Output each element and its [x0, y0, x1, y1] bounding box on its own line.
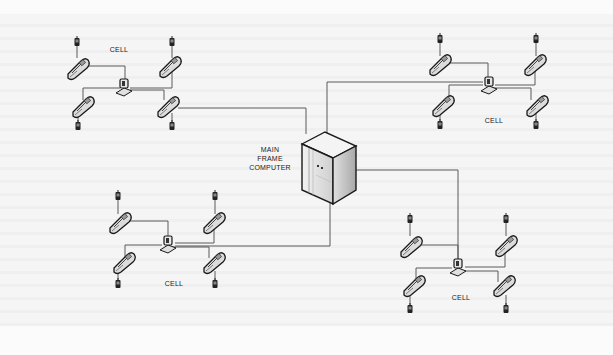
- mobile-phone-icon: [204, 253, 225, 274]
- handset-icon: [408, 303, 413, 313]
- mobile-phone-icon: [433, 96, 454, 117]
- mobile-phone-icon: [404, 276, 425, 297]
- handset-icon: [75, 36, 80, 46]
- cell-label-bottom-right: CELL: [446, 293, 476, 302]
- handset-icon: [438, 119, 443, 129]
- mobile-phone-icon: [527, 96, 548, 117]
- mobile-phone-icon: [494, 276, 515, 297]
- mobile-phone-icon: [525, 55, 546, 76]
- handset-icon: [408, 213, 413, 223]
- handset-icon: [213, 190, 218, 200]
- handset-icon: [170, 36, 175, 46]
- cell-label-bottom-left: CELL: [159, 279, 189, 288]
- cell-bottom-left: [110, 190, 225, 288]
- handset-icon: [504, 213, 509, 223]
- cell-label-top-right: CELL: [479, 116, 509, 125]
- handset-icon: [534, 33, 539, 43]
- handset-icon: [170, 120, 175, 130]
- mainframe-label: MAIN FRAME COMPUTER: [240, 145, 300, 172]
- mobile-phone-icon: [430, 55, 451, 76]
- handset-icon: [76, 120, 81, 130]
- mobile-phone-icon: [158, 97, 179, 118]
- handset-icon: [504, 303, 509, 313]
- mainframe-label-line-3: COMPUTER: [240, 163, 300, 172]
- mobile-phone-icon: [110, 213, 131, 234]
- diagram-canvas: MAIN FRAME COMPUTER CELL CELL CELL CELL: [0, 0, 613, 355]
- base-station-icon: [481, 77, 497, 94]
- handset-icon: [116, 278, 121, 288]
- mobile-phone-icon: [68, 59, 89, 80]
- mobile-phone-icon: [401, 237, 422, 258]
- mobile-phone-icon: [73, 97, 94, 118]
- mobile-phone-icon: [160, 57, 181, 78]
- handset-icon: [213, 278, 218, 288]
- mainframe-server-icon: [302, 132, 356, 204]
- mobile-phone-icon: [496, 236, 517, 257]
- cell-label-top-left: CELL: [104, 45, 134, 54]
- mainframe-label-line-2: FRAME: [240, 154, 300, 163]
- mobile-phone-icon: [204, 213, 225, 234]
- cell-top-right: [430, 33, 548, 129]
- handset-icon: [116, 190, 121, 200]
- network-diagram: [0, 0, 613, 355]
- handset-icon: [438, 33, 443, 43]
- base-station-icon: [450, 259, 466, 276]
- base-station-icon: [160, 236, 176, 253]
- handset-icon: [534, 119, 539, 129]
- mainframe-label-line-1: MAIN: [240, 145, 300, 154]
